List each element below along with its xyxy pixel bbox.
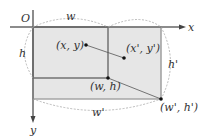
point-wh-label: (w, h)	[90, 80, 121, 93]
point-xy-prime-label: (x', y')	[126, 42, 160, 55]
x-axis-label: x	[188, 21, 195, 34]
y-axis-arrow-icon	[31, 116, 36, 123]
origin-label: O	[21, 12, 30, 25]
w-prime-label: w'	[92, 106, 104, 119]
point-wh-prime-label: (w', h')	[160, 101, 198, 114]
coordinate-transform-diagram: O x y w h h' w' (x, y) (x', y') (w, h) (…	[0, 0, 202, 138]
w-dimension-curve-ext	[108, 20, 161, 28]
point-xy-label: (x, y)	[56, 39, 84, 52]
w-label: w	[66, 10, 76, 23]
x-axis-arrow-icon	[179, 25, 186, 30]
point-xy	[84, 43, 88, 47]
y-axis-label: y	[29, 124, 37, 137]
h-label: h	[19, 47, 26, 60]
h-prime-label: h'	[168, 58, 178, 71]
point-xy-prime	[122, 56, 126, 60]
